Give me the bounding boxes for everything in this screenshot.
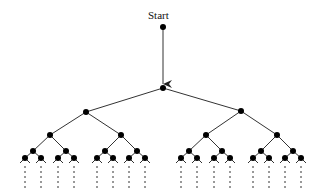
tree-edges xyxy=(25,27,301,158)
tree-node xyxy=(94,155,100,161)
tree-diagram xyxy=(0,0,318,192)
edge xyxy=(50,112,86,135)
start-node xyxy=(160,24,166,30)
edge xyxy=(277,135,293,151)
tree-node xyxy=(258,148,264,154)
edge xyxy=(189,135,206,151)
tree-node xyxy=(178,155,184,161)
edge xyxy=(206,135,222,151)
root-node xyxy=(160,85,166,91)
edge xyxy=(86,112,121,135)
tree-node xyxy=(290,148,296,154)
tree-node xyxy=(282,155,288,161)
edge xyxy=(33,135,50,151)
tree-node xyxy=(250,155,256,161)
tree-node xyxy=(102,148,108,154)
tree-node xyxy=(142,155,148,161)
tree-node xyxy=(63,148,69,154)
edge xyxy=(163,88,241,111)
tree-node xyxy=(83,109,89,115)
tree-node xyxy=(211,155,217,161)
edge xyxy=(105,135,121,151)
tree-node xyxy=(238,108,244,114)
leaf-continuation-lines xyxy=(20,158,306,188)
tree-node xyxy=(110,155,116,161)
tree-node xyxy=(227,155,233,161)
tree-node xyxy=(126,155,132,161)
tree-node xyxy=(134,148,140,154)
tree-node xyxy=(219,148,225,154)
tree-node xyxy=(298,155,304,161)
tree-node xyxy=(47,132,53,138)
tree-node xyxy=(274,132,280,138)
edge xyxy=(86,88,163,112)
edge xyxy=(121,135,137,151)
tree-node xyxy=(55,155,61,161)
tree-node xyxy=(30,148,36,154)
tree-node xyxy=(186,148,192,154)
tree-node xyxy=(118,132,124,138)
tree-node xyxy=(266,155,272,161)
tree-node xyxy=(194,155,200,161)
tree-node xyxy=(38,155,44,161)
edge xyxy=(206,111,241,135)
tree-node xyxy=(22,155,28,161)
edge xyxy=(261,135,277,151)
tree-node xyxy=(71,155,77,161)
edge xyxy=(241,111,277,135)
tree-node xyxy=(203,132,209,138)
edge xyxy=(50,135,66,151)
